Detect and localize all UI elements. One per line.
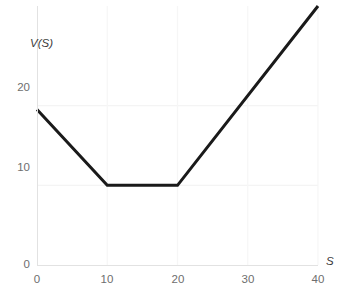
x-tick-label-0: 0 xyxy=(22,274,52,286)
figure-caption xyxy=(0,299,347,307)
chart-figure: 20 10 0 0 10 20 30 40 V(S) S xyxy=(0,0,347,307)
y-tick-label-20: 20 xyxy=(4,82,30,94)
x-tick-label-10: 10 xyxy=(92,274,122,286)
x-axis-title: S xyxy=(326,256,334,268)
data-series-line xyxy=(37,6,318,265)
x-tick-label-20: 20 xyxy=(163,274,193,286)
y-tick-label-0: 0 xyxy=(4,259,30,271)
plot-area xyxy=(37,6,318,265)
y-tick-label-10: 10 xyxy=(4,162,30,174)
x-tick-label-30: 30 xyxy=(233,274,263,286)
series-polyline xyxy=(37,6,318,185)
y-axis-title: V(S) xyxy=(30,38,53,50)
x-tick-label-40: 40 xyxy=(303,274,333,286)
x-axis-line xyxy=(37,265,318,266)
